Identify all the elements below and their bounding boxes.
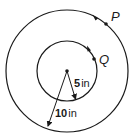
label-p: P	[111, 9, 120, 24]
inner-radius-label: 5in	[74, 77, 90, 89]
outer-radius-label: 10in	[55, 107, 77, 119]
point-p	[104, 22, 108, 26]
label-q: Q	[99, 52, 109, 67]
point-q	[92, 57, 96, 61]
concentric-circles-diagram: P Q 5in 10in	[0, 0, 134, 137]
inner-direction-arrow-icon	[87, 46, 91, 52]
